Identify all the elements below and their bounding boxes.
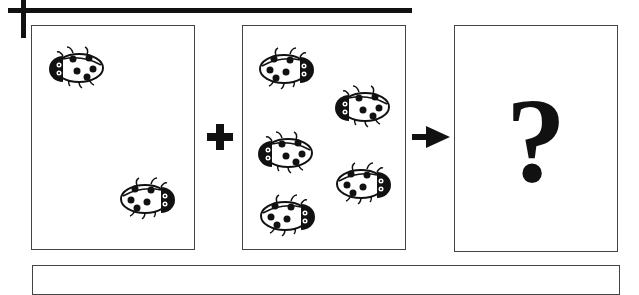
vertical-bar <box>21 0 26 38</box>
arrow-right-icon <box>412 126 450 148</box>
ladybug-icon <box>333 159 391 207</box>
ladybug-icon <box>258 128 316 176</box>
question-mark: ? <box>455 81 617 201</box>
answer-box[interactable] <box>32 265 620 295</box>
ladybug-icon <box>256 44 314 92</box>
panel-second-group <box>242 25 406 250</box>
ladybug-icon <box>49 43 107 91</box>
ladybug-icon <box>117 174 175 222</box>
panel-first-group <box>31 25 195 250</box>
plus-icon <box>207 124 233 150</box>
top-rule <box>8 8 412 13</box>
panel-result: ? <box>454 25 618 252</box>
ladybug-icon <box>257 191 315 239</box>
ladybug-icon <box>335 82 393 130</box>
